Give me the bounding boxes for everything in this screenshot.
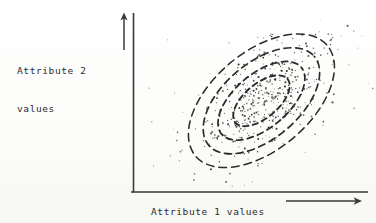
scatter-point bbox=[291, 72, 293, 74]
scatter-point bbox=[306, 88, 307, 89]
scatter-point bbox=[257, 102, 259, 104]
scatter-point bbox=[249, 121, 251, 123]
scatter-point bbox=[333, 93, 335, 95]
scatter-point-outlier bbox=[348, 64, 349, 65]
scatter-point bbox=[219, 161, 220, 162]
scatter-point bbox=[272, 74, 273, 75]
scatter-point bbox=[263, 63, 264, 64]
scatter-point bbox=[290, 113, 291, 114]
scatter-point-outlier bbox=[209, 73, 210, 74]
y-axis-label-line1: Attribute 2 bbox=[17, 65, 87, 78]
scatter-point bbox=[248, 158, 249, 159]
scatter-point bbox=[234, 110, 236, 112]
scatter-point bbox=[258, 91, 260, 93]
scatter-point bbox=[272, 120, 274, 122]
scatter-point bbox=[278, 102, 279, 103]
scatter-point bbox=[271, 101, 273, 103]
scatter-point bbox=[242, 123, 243, 124]
scatter-point bbox=[257, 138, 259, 140]
scatter-point bbox=[252, 105, 254, 107]
scatter-point-outlier bbox=[204, 146, 205, 147]
scatter-point bbox=[229, 101, 230, 102]
scatter-point bbox=[301, 51, 303, 53]
scatter-point bbox=[284, 85, 286, 87]
scatter-point bbox=[290, 95, 292, 97]
scatter-point bbox=[271, 96, 273, 98]
scatter-point bbox=[182, 150, 183, 151]
scatter-point bbox=[274, 98, 275, 99]
scatter-point-outlier bbox=[182, 112, 183, 113]
scatter-point bbox=[308, 72, 309, 73]
scatter-point bbox=[229, 125, 230, 126]
scatter-point bbox=[253, 116, 255, 118]
scatter-point bbox=[283, 143, 284, 144]
scatter-point bbox=[286, 70, 288, 72]
scatter-point bbox=[234, 155, 235, 156]
scatter-point bbox=[273, 92, 274, 93]
x-axis-direction-arrow-icon bbox=[286, 197, 362, 205]
scatter-point bbox=[216, 97, 218, 99]
scatter-point-outlier bbox=[368, 83, 369, 84]
scatter-point bbox=[279, 80, 280, 81]
scatter-point bbox=[263, 116, 265, 118]
scatter-point bbox=[295, 70, 296, 71]
scatter-point bbox=[249, 99, 250, 100]
scatter-point bbox=[372, 88, 374, 90]
scatter-point bbox=[295, 88, 296, 89]
scatter-point bbox=[227, 120, 228, 121]
scatter-point bbox=[291, 103, 293, 105]
scatter-point bbox=[271, 94, 272, 95]
scatter-point-outlier bbox=[276, 137, 277, 138]
scatter-point bbox=[267, 93, 269, 95]
scatter-point bbox=[254, 142, 255, 143]
scatter-point bbox=[247, 85, 248, 86]
scatter-point-outlier bbox=[245, 119, 247, 121]
scatter-point bbox=[277, 111, 278, 112]
scatter-point bbox=[245, 89, 246, 90]
scatter-point bbox=[310, 86, 311, 87]
scatter-point bbox=[282, 67, 283, 68]
scatter-point-outlier bbox=[247, 110, 249, 112]
scatter-point bbox=[306, 45, 308, 47]
scatter-point-outlier bbox=[167, 39, 168, 40]
scatter-point bbox=[257, 85, 259, 87]
scatter-point-outlier bbox=[323, 47, 325, 49]
scatter-point bbox=[320, 54, 322, 56]
scatter-point bbox=[238, 146, 239, 147]
scatter-point bbox=[264, 92, 265, 93]
y-axis-direction-arrow-icon bbox=[120, 13, 127, 51]
scatter-point bbox=[238, 107, 240, 109]
scatter-point bbox=[316, 79, 317, 80]
scatter-point bbox=[211, 123, 213, 125]
scatter-point bbox=[262, 138, 263, 139]
scatter-point bbox=[210, 168, 212, 170]
scatter-point bbox=[251, 103, 253, 105]
scatter-point bbox=[288, 85, 290, 87]
scatter-point bbox=[313, 48, 314, 49]
scatter-point-outlier bbox=[292, 38, 294, 40]
scatter-point-outlier bbox=[228, 123, 229, 124]
scatter-point-outlier bbox=[257, 76, 258, 77]
scatter-point-outlier bbox=[195, 117, 196, 118]
scatter-point bbox=[259, 83, 260, 84]
scatter-point bbox=[253, 112, 255, 114]
scatter-point bbox=[268, 96, 269, 97]
scatter-point bbox=[261, 90, 263, 92]
scatter-point bbox=[268, 114, 269, 115]
scatter-point bbox=[258, 92, 259, 93]
scatter-point bbox=[244, 148, 246, 150]
scatter-point bbox=[282, 107, 283, 108]
scatter-point bbox=[259, 49, 260, 50]
scatter-point bbox=[347, 25, 349, 27]
scatter-point-outlier bbox=[257, 163, 259, 165]
scatter-point-outlier bbox=[357, 47, 358, 48]
y-axis-label-line2: values bbox=[17, 103, 87, 116]
scatter-point bbox=[275, 54, 277, 56]
scatter-point bbox=[217, 139, 218, 140]
scatter-point bbox=[307, 74, 309, 76]
scatter-point bbox=[287, 104, 288, 105]
scatter-point-outlier bbox=[263, 37, 265, 39]
scatter-point bbox=[305, 42, 307, 44]
scatter-point bbox=[212, 138, 213, 139]
scatter-point bbox=[262, 104, 263, 105]
